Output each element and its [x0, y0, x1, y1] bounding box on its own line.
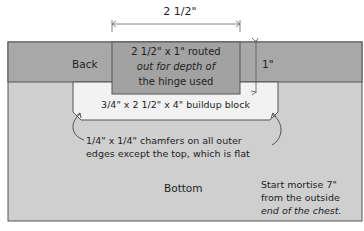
back-label: Back [72, 58, 98, 70]
routed-note: 2 1/2" x 1" routed out for depth of the … [112, 44, 240, 89]
top-dimension-label: 2 1/2" [160, 6, 200, 18]
mortise-note: Start mortise 7" from the outside end of… [261, 178, 342, 217]
side-dimension-label: 1" [262, 58, 274, 70]
bottom-label: Bottom [164, 182, 203, 194]
chamfer-note: 1/4" x 1/4" chamfers on all outer edges … [86, 134, 250, 160]
block-label: 3/4" x 2 1/2" x 4" buildup block [73, 99, 278, 111]
